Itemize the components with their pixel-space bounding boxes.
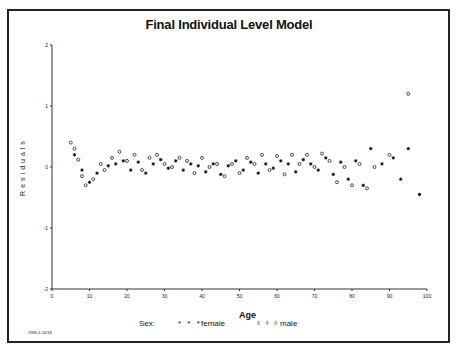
male-point bbox=[283, 173, 286, 176]
male-point bbox=[126, 159, 129, 162]
y-tick-label: 2 bbox=[45, 42, 48, 48]
plot-area: 0102030405060708090100210-1-2 bbox=[0, 0, 458, 352]
male-point bbox=[231, 162, 234, 165]
female-point bbox=[182, 168, 185, 171]
female-point bbox=[264, 162, 267, 165]
x-tick-label: 100 bbox=[423, 293, 432, 299]
female-point bbox=[317, 168, 320, 171]
x-tick-label: 60 bbox=[274, 293, 280, 299]
x-tick-label: 70 bbox=[312, 293, 318, 299]
x-tick-label: 10 bbox=[87, 293, 93, 299]
female-point bbox=[324, 156, 327, 159]
female-point bbox=[392, 156, 395, 159]
male-point bbox=[291, 153, 294, 156]
female-point bbox=[418, 193, 421, 196]
female-point bbox=[339, 161, 342, 164]
female-point bbox=[80, 168, 83, 171]
x-tick-label: 80 bbox=[349, 293, 355, 299]
male-point bbox=[148, 156, 151, 159]
female-point bbox=[137, 161, 140, 164]
male-point bbox=[92, 178, 95, 181]
female-point bbox=[227, 164, 230, 167]
female-point bbox=[347, 178, 350, 181]
x-tick-label: 0 bbox=[51, 293, 54, 299]
x-tick-label: 20 bbox=[124, 293, 130, 299]
male-point bbox=[321, 152, 324, 155]
male-point bbox=[223, 175, 226, 178]
male-point bbox=[99, 162, 102, 165]
male-point bbox=[306, 153, 309, 156]
male-point bbox=[336, 181, 339, 184]
female-point bbox=[95, 172, 98, 175]
female-point bbox=[257, 172, 260, 175]
male-point bbox=[133, 153, 136, 156]
female-point bbox=[159, 158, 162, 161]
female-point bbox=[242, 168, 245, 171]
male-point bbox=[111, 156, 114, 159]
diamond-icon: ◊ ◊ ◊ bbox=[257, 320, 279, 326]
male-point bbox=[73, 147, 76, 150]
male-point bbox=[358, 162, 361, 165]
male-point bbox=[201, 156, 204, 159]
star-icon: * * * bbox=[178, 319, 202, 328]
y-tick-label: -1 bbox=[44, 225, 49, 231]
female-point bbox=[362, 184, 365, 187]
female-point bbox=[249, 161, 252, 164]
male-point bbox=[103, 169, 106, 172]
footer-code: 1986-4-16/18 bbox=[28, 330, 52, 335]
female-point bbox=[152, 162, 155, 165]
legend-label-male: male bbox=[280, 319, 297, 328]
male-point bbox=[156, 153, 159, 156]
female-point bbox=[122, 159, 125, 162]
male-point bbox=[298, 162, 301, 165]
male-point bbox=[193, 172, 196, 175]
female-point bbox=[73, 153, 76, 156]
female-point bbox=[332, 173, 335, 176]
female-point bbox=[114, 162, 117, 165]
male-point bbox=[186, 159, 189, 162]
male-point bbox=[276, 155, 279, 158]
female-point bbox=[354, 159, 357, 162]
male-point bbox=[253, 162, 256, 165]
female-point bbox=[380, 162, 383, 165]
male-point bbox=[351, 184, 354, 187]
male-point bbox=[407, 92, 410, 95]
legend-label-female: female bbox=[201, 319, 225, 328]
data-points bbox=[69, 92, 421, 196]
female-point bbox=[197, 164, 200, 167]
y-axis-label: Residuals bbox=[19, 138, 26, 196]
female-point bbox=[129, 168, 132, 171]
female-point bbox=[399, 178, 402, 181]
male-point bbox=[84, 184, 87, 187]
male-point bbox=[163, 162, 166, 165]
male-point bbox=[373, 166, 376, 169]
axes: 0102030405060708090100210-1-2 bbox=[44, 42, 432, 299]
male-point bbox=[328, 159, 331, 162]
male-point bbox=[141, 169, 144, 172]
male-point bbox=[343, 166, 346, 169]
male-point bbox=[118, 150, 121, 153]
female-point bbox=[234, 159, 237, 162]
female-point bbox=[369, 147, 372, 150]
female-point bbox=[88, 181, 91, 184]
male-point bbox=[77, 158, 80, 161]
male-point bbox=[81, 175, 84, 178]
female-point bbox=[144, 172, 147, 175]
male-point bbox=[388, 153, 391, 156]
legend-title: Sex: bbox=[139, 319, 155, 328]
male-point bbox=[216, 162, 219, 165]
y-tick-label: -2 bbox=[44, 286, 49, 292]
female-point bbox=[407, 147, 410, 150]
male-point bbox=[313, 166, 316, 169]
female-point bbox=[204, 170, 207, 173]
female-point bbox=[167, 167, 170, 170]
x-tick-label: 50 bbox=[237, 293, 243, 299]
female-point bbox=[309, 162, 312, 165]
female-point bbox=[279, 159, 282, 162]
male-point bbox=[178, 156, 181, 159]
x-tick-label: 90 bbox=[387, 293, 393, 299]
x-axis-label: Age bbox=[239, 310, 256, 320]
x-tick-label: 40 bbox=[199, 293, 205, 299]
male-point bbox=[238, 172, 241, 175]
female-point bbox=[174, 159, 177, 162]
